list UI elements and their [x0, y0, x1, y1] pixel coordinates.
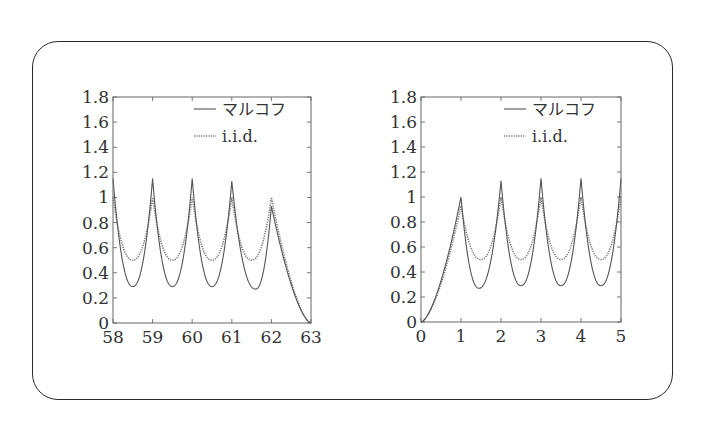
y-tick-label: 1 [406, 187, 417, 207]
y-tick-label: 0.4 [82, 263, 109, 283]
x-tick-label: 4 [576, 326, 587, 346]
x-tick-label: 60 [181, 327, 203, 347]
y-tick-label: 0.6 [82, 238, 109, 258]
x-tick-label: 63 [300, 327, 322, 347]
x-tick-label: 61 [221, 327, 243, 347]
y-tick-label: 1.2 [390, 162, 417, 182]
y-tick-label: 1.8 [390, 87, 417, 107]
y-tick-label: 1.2 [82, 162, 109, 182]
y-tick-label: 1.6 [390, 112, 417, 132]
charts-canvas: 00.20.40.60.811.21.41.61.8 585960616263 … [0, 0, 705, 430]
right-axes-frame [421, 97, 621, 322]
y-tick-label: 0.2 [390, 287, 417, 307]
right-legend: マルコフ i.i.d. [504, 100, 596, 146]
right-markov-curve [421, 178, 621, 322]
y-tick-label: 0.2 [82, 288, 109, 308]
x-tick-label: 59 [142, 327, 164, 347]
right-chart: 00.20.40.60.811.21.41.61.8 012345 マルコフ i… [390, 87, 626, 346]
x-tick-label: 62 [261, 327, 283, 347]
left-axes-frame [113, 97, 311, 323]
right-legend-markov-label: マルコフ [532, 100, 596, 119]
y-tick-label: 1.4 [390, 137, 417, 157]
y-tick-label: 1.6 [82, 112, 109, 132]
y-tick-label: 0.4 [390, 262, 417, 282]
left-ticks [113, 97, 311, 323]
y-tick-label: 1.4 [82, 137, 109, 157]
x-tick-label: 0 [416, 326, 427, 346]
y-tick-label: 1 [98, 187, 109, 207]
left-legend: マルコフ i.i.d. [194, 100, 286, 146]
x-tick-label: 1 [456, 326, 467, 346]
x-tick-label: 3 [536, 326, 547, 346]
x-tick-label: 58 [102, 327, 124, 347]
left-legend-iid-label: i.i.d. [222, 127, 258, 146]
right-legend-iid-label: i.i.d. [532, 127, 568, 146]
right-ticks [421, 97, 621, 322]
right-x-tick-labels: 012345 [416, 326, 627, 346]
left-chart: 00.20.40.60.811.21.41.61.8 585960616263 … [82, 87, 322, 347]
left-legend-markov-label: マルコフ [222, 100, 286, 119]
left-markov-curve [113, 179, 311, 323]
y-tick-label: 0.6 [390, 237, 417, 257]
y-tick-label: 0.8 [390, 212, 417, 232]
y-tick-label: 0.8 [82, 213, 109, 233]
left-y-tick-labels: 00.20.40.60.811.21.41.61.8 [82, 87, 109, 333]
right-y-tick-labels: 00.20.40.60.811.21.41.61.8 [390, 87, 417, 332]
x-tick-label: 2 [496, 326, 507, 346]
left-x-tick-labels: 585960616263 [102, 327, 322, 347]
x-tick-label: 5 [616, 326, 627, 346]
y-tick-label: 1.8 [82, 87, 109, 107]
